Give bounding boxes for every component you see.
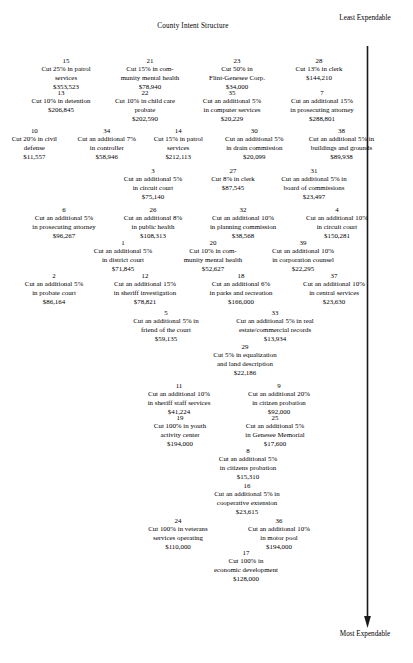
- intent-description: Cut an additional 10% in circuit court: [295, 214, 379, 231]
- intent-amount: $58,946: [71, 153, 143, 162]
- intent-cell: 18Cut an additional 6% in parks and recr…: [192, 271, 290, 306]
- intent-rank: 15: [29, 56, 103, 65]
- intent-description: Cut 15% in patrol services: [147, 135, 210, 152]
- intent-description: Cut an additional 15% in prosecuting att…: [278, 97, 366, 114]
- intent-description: Cut an additional 5% in cooperative exte…: [194, 490, 300, 507]
- intent-amount: $22,186: [189, 369, 301, 378]
- intent-cell: 25Cut an additional 5% in Genesee Memori…: [226, 413, 324, 448]
- intent-description: Cut an additional 5% in real estate/comm…: [220, 317, 330, 334]
- intent-cell: 36Cut an additional 10% in motor pool$19…: [230, 516, 328, 551]
- intent-rank: 3: [109, 166, 197, 175]
- intent-description: Cut an additional 5% in friend of the co…: [116, 317, 216, 334]
- intent-amount: $15,310: [198, 473, 298, 482]
- intent-cell: 30Cut an additional 5% in drain commissi…: [212, 126, 297, 161]
- intent-description: Cut an additional 5% in buildings and gr…: [299, 135, 384, 152]
- intent-rank: 13: [22, 88, 100, 97]
- intent-description: Cut an additional 10% in corporation cou…: [258, 247, 348, 264]
- intent-cell: 35Cut an additional 5% in computer servi…: [188, 88, 276, 123]
- intent-row: 16Cut an additional 5% in cooperative ex…: [0, 481, 386, 516]
- intent-description: Cut an additional 7% in controller: [71, 135, 143, 152]
- intent-cell: 22Cut 10% in child care probate$202,590: [102, 88, 188, 123]
- intent-description: Cut an additional 5% in citizens probati…: [198, 455, 298, 472]
- intent-rank: 39: [258, 238, 348, 247]
- intent-rank: 29: [189, 342, 301, 351]
- intent-amount: $20,229: [190, 115, 274, 124]
- intent-description: Cut an additional 10% in planning commis…: [195, 214, 291, 231]
- intent-rank: 35: [190, 88, 274, 97]
- intent-amount: $11,557: [2, 153, 67, 162]
- intent-row: 24Cut 100% in veterans services operatin…: [0, 516, 386, 551]
- intent-rank: 10: [2, 126, 67, 135]
- intent-rank: 11: [129, 381, 229, 390]
- intent-cell: 26Cut an additional 8% in public health$…: [113, 205, 193, 240]
- intent-amount: $23,630: [292, 298, 376, 307]
- intent-row: 17Cut 100% in economic development$128,0…: [0, 548, 386, 583]
- intent-amount: $78,821: [100, 298, 190, 307]
- intent-amount: $20,099: [214, 153, 295, 162]
- intent-rank: 5: [116, 308, 216, 317]
- intent-description: Cut 10% in detention: [22, 97, 100, 106]
- intent-amount: $128,000: [193, 575, 299, 584]
- intent-description: Cut 100% in veterans services operating: [128, 525, 228, 542]
- intent-amount: $87,545: [201, 184, 265, 193]
- intent-description: Cut an additional 10% in central service…: [292, 280, 376, 297]
- intent-cell: 16Cut an additional 5% in cooperative ex…: [192, 481, 302, 516]
- intent-cell: 34Cut an additional 7% in controller$58,…: [69, 126, 145, 161]
- intent-rank: 34: [71, 126, 143, 135]
- intent-rank: 16: [194, 481, 300, 490]
- scale-label-least-expendable: Least Expendable: [323, 14, 407, 23]
- intent-cell: 38Cut an additional 5% in buildings and …: [297, 126, 386, 161]
- intent-rank: 8: [198, 446, 298, 455]
- intent-cell: 37Cut an additional 10% in central servi…: [290, 271, 378, 306]
- intent-amount: $75,140: [109, 193, 197, 202]
- intent-description: Cut an additional 5% in Genesee Memorial: [228, 422, 322, 439]
- intent-description: Cut 10% in child care probate: [104, 97, 186, 114]
- intent-description: Cut an additional 5% in board of commiss…: [269, 175, 359, 192]
- intent-rank: 2: [12, 271, 96, 280]
- intent-description: Cut 13% in clerk: [281, 65, 357, 74]
- intent-description: Cut an additional 5% in probate court: [12, 280, 96, 297]
- intent-amount: $89,938: [299, 153, 384, 162]
- intent-description: Cut an additional 6% in parks and recrea…: [194, 280, 288, 297]
- intent-amount: $144,210: [281, 74, 357, 83]
- intent-row: 1Cut an additional 5% in district court$…: [0, 238, 386, 273]
- intent-row: 10Cut 20% in civil defense$11,55734Cut a…: [0, 126, 386, 161]
- intent-description: Cut an additional 20% in citizen probati…: [233, 390, 325, 407]
- intent-rank: 7: [278, 88, 366, 97]
- intent-rank: 33: [220, 308, 330, 317]
- intent-description: Cut an additional 10% in sheriff staff s…: [129, 390, 229, 407]
- intent-cell: 15Cut 25% in patrol services$353,523: [27, 56, 105, 91]
- intent-cell: 31Cut an additional 5% in board of commi…: [267, 166, 361, 201]
- intent-cell: 5Cut an additional 5% in friend of the c…: [114, 308, 218, 343]
- intent-row: 3Cut an additional 5% in circuit court$7…: [0, 166, 386, 201]
- intent-amount: $23,497: [269, 193, 359, 202]
- intent-description: Cut an additional 5% in circuit court: [109, 175, 197, 192]
- intent-amount: $212,113: [147, 153, 210, 162]
- intent-cell: 24Cut 100% in veterans services operatin…: [126, 516, 230, 551]
- intent-description: Cut an additional 15% in sheriff investi…: [100, 280, 190, 297]
- intent-cell: 1Cut an additional 5% in district court$…: [76, 238, 170, 273]
- intent-row: 15Cut 25% in patrol services$353,52321Cu…: [0, 56, 386, 91]
- intent-rank: 32: [195, 205, 291, 214]
- intent-row: 5Cut an additional 5% in friend of the c…: [0, 308, 386, 343]
- intent-cell: 32Cut an additional 10% in planning comm…: [193, 205, 293, 240]
- intent-amount: $206,845: [22, 106, 100, 115]
- intent-amount: $288,801: [278, 115, 366, 124]
- intent-cell: 19Cut 100% in youth activity center$194,…: [134, 413, 226, 448]
- intent-amount: $23,615: [194, 508, 300, 517]
- intent-description: Cut 15% in com- munity mental health: [107, 65, 193, 82]
- intent-cell: 6Cut an additional 5% in prosecuting att…: [15, 205, 113, 240]
- intent-cell: 21Cut 15% in com- munity mental health$7…: [105, 56, 195, 91]
- intent-row: 2Cut an additional 5% in probate court$8…: [0, 271, 386, 306]
- intent-rank: 17: [193, 548, 299, 557]
- intent-amount: $86,164: [12, 298, 96, 307]
- intent-row: 29Cut 5% in equalization and land descri…: [0, 342, 386, 377]
- intent-rank: 1: [78, 238, 168, 247]
- intent-description: Cut 25% in patrol services: [29, 65, 103, 82]
- intent-row: 6Cut an additional 5% in prosecuting att…: [0, 205, 386, 240]
- intent-cell: 14Cut 15% in patrol services$212,113: [145, 126, 212, 161]
- intent-cell: 12Cut an additional 15% in sheriff inves…: [98, 271, 192, 306]
- intent-rank: 9: [233, 381, 325, 390]
- intent-row: 11Cut an additional 10% in sheriff staff…: [0, 381, 386, 416]
- intent-cell: 8Cut an additional 5% in citizens probat…: [196, 446, 300, 481]
